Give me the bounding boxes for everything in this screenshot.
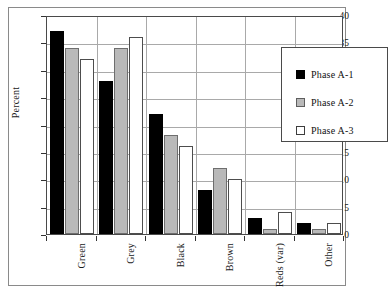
bar-group xyxy=(146,17,196,234)
legend: Phase A-1 Phase A-2 Phase A-3 xyxy=(281,47,388,142)
legend-swatch-icon xyxy=(296,70,305,79)
x-axis-tick-mark xyxy=(195,236,196,241)
legend-label: Phase A-2 xyxy=(311,97,354,108)
bar-group xyxy=(47,17,97,234)
bar xyxy=(213,168,227,234)
x-axis-tick-mark xyxy=(145,236,146,241)
bar xyxy=(297,223,311,234)
x-axis-tick-label: Other xyxy=(323,243,334,267)
bar xyxy=(327,223,341,234)
bar xyxy=(278,212,292,234)
legend-item: Phase A-3 xyxy=(296,116,387,144)
x-axis-tick-label: Grey xyxy=(125,243,136,264)
legend-swatch-icon xyxy=(296,126,305,135)
x-axis-tick-label: Brown xyxy=(224,243,235,271)
x-axis-tick-mark xyxy=(96,236,97,241)
x-axis-tick-label: Reds (var) xyxy=(274,243,285,287)
bar xyxy=(114,48,128,234)
bar xyxy=(80,59,94,234)
bar xyxy=(65,48,79,234)
y-axis-label: Percent xyxy=(10,63,21,143)
x-axis-tick-mark xyxy=(244,236,245,241)
legend-swatch-icon xyxy=(296,98,305,107)
legend-item: Phase A-2 xyxy=(296,88,387,116)
bar xyxy=(198,190,212,234)
bar xyxy=(129,37,143,234)
legend-label: Phase A-3 xyxy=(311,125,354,136)
bar xyxy=(263,229,277,234)
x-axis-tick-label: Black xyxy=(175,243,186,267)
bar xyxy=(164,135,178,234)
legend-label: Phase A-1 xyxy=(311,69,354,80)
bar-group xyxy=(97,17,147,234)
bar xyxy=(99,81,113,234)
bar xyxy=(149,114,163,234)
bar xyxy=(50,31,64,234)
x-axis-tick-label: Green xyxy=(76,243,87,268)
bar xyxy=(248,218,262,234)
x-axis-tick-mark xyxy=(294,236,295,241)
plot-area: Phase A-1 Phase A-2 Phase A-3 xyxy=(46,16,343,235)
x-axis-tick-mark xyxy=(343,236,344,241)
bar xyxy=(228,179,242,234)
bar xyxy=(312,229,326,234)
bar xyxy=(179,146,193,234)
legend-item: Phase A-1 xyxy=(296,60,387,88)
x-axis-tick-mark xyxy=(46,236,47,241)
bar-group xyxy=(196,17,246,234)
